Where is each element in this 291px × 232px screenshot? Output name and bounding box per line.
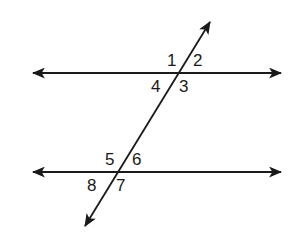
angle-label-7: 7 <box>116 176 125 195</box>
transversal-line <box>85 22 210 226</box>
angle-label-6: 6 <box>132 150 141 169</box>
angle-label-3: 3 <box>179 77 188 96</box>
angle-label-8: 8 <box>87 176 96 195</box>
angle-label-4: 4 <box>151 77 160 96</box>
diagram-canvas: 1 2 4 3 5 6 8 7 <box>0 0 291 232</box>
angle-label-2: 2 <box>193 51 202 70</box>
angle-label-5: 5 <box>105 150 114 169</box>
parallel-lines-transversal-diagram: 1 2 4 3 5 6 8 7 <box>0 0 291 232</box>
angle-label-1: 1 <box>167 51 176 70</box>
